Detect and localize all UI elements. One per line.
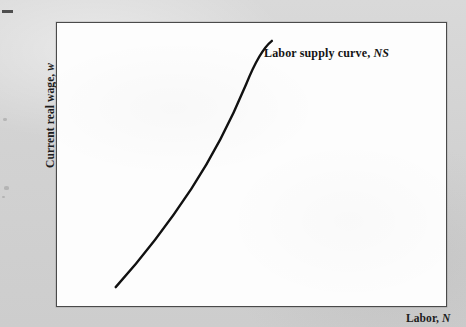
x-axis-label-text: Labor, [406,312,439,324]
figure-container: Current real wage, w Labor supply curve,… [0,0,466,327]
curve-label-text: Labor supply curve, [264,46,370,60]
labor-supply-curve-path [116,41,272,287]
scan-artifact-speck [3,118,7,121]
y-axis-label-symbol: w [44,63,56,71]
curve-label: Labor supply curve, NS [264,46,389,61]
scan-artifact-speck [4,186,9,190]
x-axis-label-symbol: N [442,312,450,324]
y-axis-label: Current real wage, w [44,18,56,168]
x-axis-label: Labor, N [406,312,450,324]
labor-supply-curve-svg [57,23,446,306]
scan-artifact-margin-mark [2,10,13,13]
scan-artifact-speck [2,196,5,198]
curve-label-symbol: NS [373,46,389,60]
plot-area [56,22,447,307]
y-axis-label-text: Current real wage, [44,74,56,168]
